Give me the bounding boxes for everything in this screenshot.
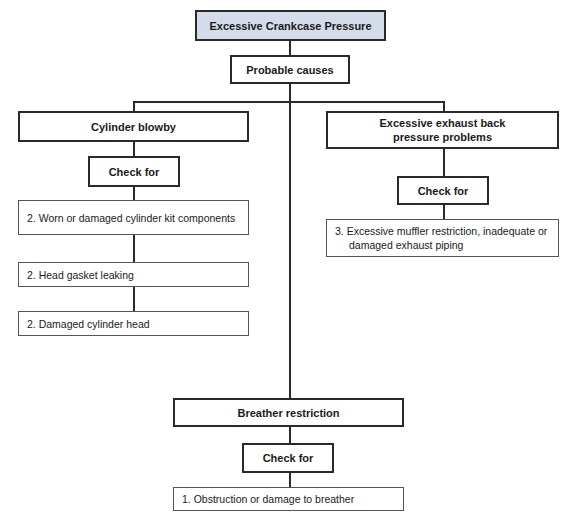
check-for-text: Check for <box>263 452 314 464</box>
check-for-node-left: Check for <box>88 156 180 187</box>
title-text: Excessive Crankcase Pressure <box>209 20 371 32</box>
check-item-node: 2. Worn or damaged cylinder kit componen… <box>18 200 249 235</box>
check-item-text: 2. Head gasket leaking <box>27 268 134 282</box>
connector-to-left-branch <box>133 101 135 111</box>
check-for-node-bottom: Check for <box>242 443 334 473</box>
connector-left-cause-to-check <box>133 141 135 156</box>
connector-causes-trunk <box>289 83 291 398</box>
cause-node-exhaust-back-pressure: Excessive exhaust back pressure problems <box>326 111 559 149</box>
check-item-node: 2. Damaged cylinder head <box>18 311 249 336</box>
check-item-node: 1. Obstruction or damage to breather <box>173 487 404 511</box>
check-for-text: Check for <box>418 185 469 197</box>
cause-text: Cylinder blowby <box>91 121 176 133</box>
probable-causes-text: Probable causes <box>246 64 333 76</box>
connector-branch-bar <box>133 101 444 103</box>
cause-text: Breather restriction <box>237 407 339 419</box>
connector-left-item2-to-item3 <box>133 286 135 311</box>
connector-bottom-check-to-item <box>289 472 291 487</box>
check-item-node: 3. Excessive muffler restriction, inadeq… <box>326 219 559 257</box>
cause-text: Excessive exhaust back pressure problems <box>378 116 507 144</box>
check-for-text: Check for <box>109 166 160 178</box>
check-item-node: 2. Head gasket leaking <box>18 262 249 287</box>
check-item-text: 3. Excessive muffler restriction, inadeq… <box>335 224 550 252</box>
connector-left-item1-to-item2 <box>133 234 135 262</box>
connector-to-right-branch <box>443 101 445 111</box>
connector-right-cause-to-check <box>443 148 445 176</box>
check-item-text: 1. Obstruction or damage to breather <box>182 492 354 506</box>
connector-left-check-to-items <box>133 186 135 200</box>
connector-title-to-causes <box>289 40 291 55</box>
connector-right-check-to-item <box>443 204 445 219</box>
check-item-text: 2. Damaged cylinder head <box>27 317 150 331</box>
cause-node-breather-restriction: Breather restriction <box>173 398 404 427</box>
cause-node-cylinder-blowby: Cylinder blowby <box>18 111 249 142</box>
title-node: Excessive Crankcase Pressure <box>195 10 386 41</box>
check-item-text: 2. Worn or damaged cylinder kit componen… <box>27 211 235 225</box>
connector-bottom-cause-to-check <box>289 426 291 443</box>
check-for-node-right: Check for <box>397 176 489 205</box>
probable-causes-node: Probable causes <box>230 55 350 84</box>
